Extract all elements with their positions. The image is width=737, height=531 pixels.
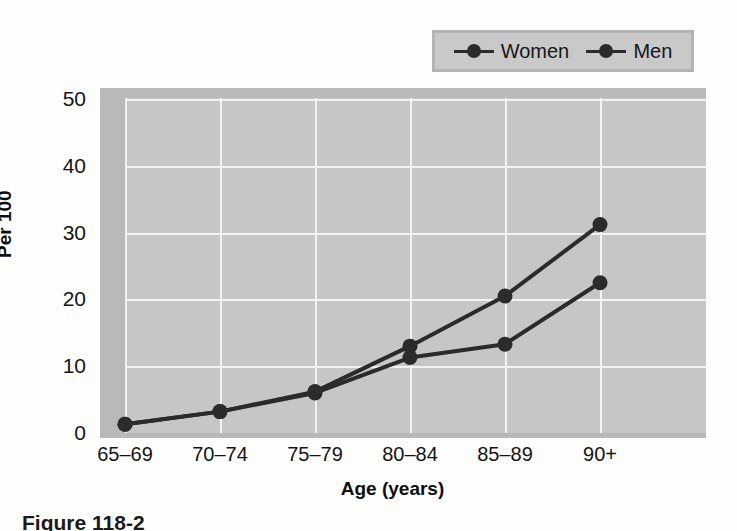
y-axis-label: Per 100 (0, 190, 16, 258)
figure-container: Women Men 01020304050 65–6970–7475–7980–… (0, 0, 737, 531)
x-tick-label: 75–79 (287, 443, 343, 466)
y-tick-label: 20 (42, 287, 86, 311)
y-tick-label: 0 (42, 421, 86, 445)
y-tick-label: 50 (42, 87, 86, 111)
x-tick-label: 65–69 (97, 443, 153, 466)
y-tick-label: 10 (42, 354, 86, 378)
x-tick-label: 90+ (583, 443, 617, 466)
figure-caption: Figure 118-2 (22, 511, 145, 531)
x-axis-label-text: Age (years) (293, 478, 445, 499)
y-tick-label: 30 (42, 221, 86, 245)
y-tick-label: 40 (42, 154, 86, 178)
x-tick-label: 80–84 (382, 443, 438, 466)
x-tick-label: 70–74 (192, 443, 248, 466)
x-axis-label: Age (years) (0, 478, 737, 500)
x-tick-label: 85–89 (477, 443, 533, 466)
